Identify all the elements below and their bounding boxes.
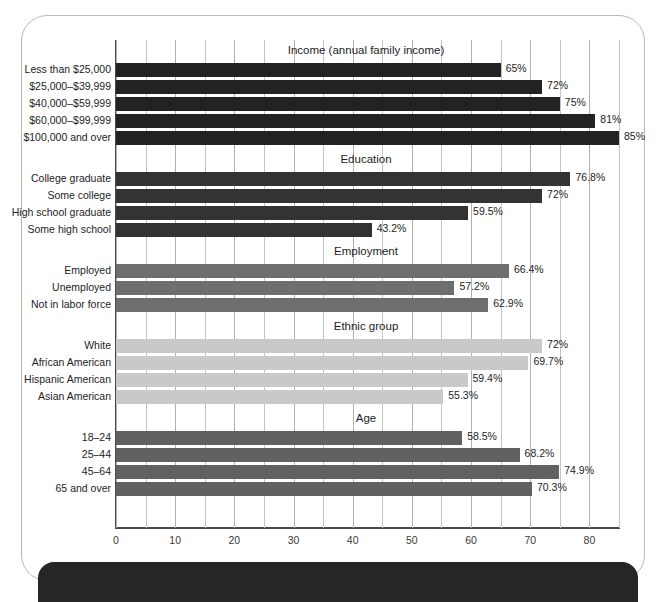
category-label: White [84, 339, 111, 351]
bar-value-label: 43.2% [377, 222, 407, 234]
x-tick-label: 40 [347, 534, 359, 546]
bar-row: 62.9% [116, 298, 619, 312]
bar [116, 431, 462, 445]
x-tick-label: 20 [229, 534, 241, 546]
section-title-income-annual-family-income: Income (annual family income) [288, 44, 445, 56]
bar-row: 76.8% [116, 172, 619, 186]
category-label: 45–64 [82, 465, 111, 477]
bar [116, 172, 570, 186]
bar-value-label: 70.3% [537, 481, 567, 493]
category-label: College graduate [31, 172, 111, 184]
x-tick-label: 50 [406, 534, 418, 546]
x-tick-label: 60 [465, 534, 477, 546]
bar [116, 281, 454, 295]
bar-row: 81% [116, 114, 619, 128]
category-label: Unemployed [52, 281, 111, 293]
category-label: $25,000–$39,999 [29, 80, 111, 92]
category-label: 18–24 [82, 431, 111, 443]
bar [116, 114, 595, 128]
category-label: Asian American [38, 390, 111, 402]
bar-value-label: 72% [547, 188, 568, 200]
category-label: Employed [64, 264, 111, 276]
bar-row: 85% [116, 131, 619, 145]
x-tick-label: 10 [169, 534, 181, 546]
bar [116, 356, 528, 370]
bar-value-label: 62.9% [493, 297, 523, 309]
bar [116, 390, 443, 404]
bar [116, 63, 501, 77]
bar-value-label: 68.2% [525, 447, 555, 459]
bar-row: 65% [116, 63, 619, 77]
section-title-education: Education [340, 153, 391, 165]
bar-row: 66.4% [116, 264, 619, 278]
bar-value-label: 55.3% [448, 389, 478, 401]
category-label: Less than $25,000 [25, 63, 111, 75]
bar-value-label: 69.7% [533, 355, 563, 367]
section-title-ethnic-group: Ethnic group [334, 320, 399, 332]
category-label: High school graduate [12, 206, 111, 218]
bar-value-label: 75% [565, 96, 586, 108]
plot-area: 65%72%75%81%85%76.8%72%59.5%43.2%66.4%57… [116, 40, 619, 528]
bar-value-label: 59.4% [473, 372, 503, 384]
category-label: Some high school [28, 223, 111, 235]
bar-row: 43.2% [116, 223, 619, 237]
bar [116, 448, 520, 462]
bar [116, 131, 619, 145]
bar-value-label: 76.8% [575, 171, 605, 183]
bar-value-label: 85% [624, 130, 645, 142]
bar [116, 206, 468, 220]
bar-value-label: 72% [547, 79, 568, 91]
bar-value-label: 81% [600, 113, 621, 125]
category-label: 65 and over [56, 482, 111, 494]
bar [116, 298, 488, 312]
bar-value-label: 65% [506, 62, 527, 74]
bar-row: 74.9% [116, 465, 619, 479]
section-title-employment: Employment [334, 245, 398, 257]
x-tick-label: 80 [584, 534, 596, 546]
bar-value-label: 57.2% [459, 280, 489, 292]
caption-bar [38, 562, 638, 602]
bar-row: 72% [116, 80, 619, 94]
bar [116, 189, 542, 203]
bar-value-label: 74.9% [564, 464, 594, 476]
bar-row: 69.7% [116, 356, 619, 370]
bar [116, 97, 560, 111]
section-title-age: Age [356, 412, 376, 424]
bar [116, 223, 372, 237]
bar-row: 59.4% [116, 373, 619, 387]
bar-value-label: 72% [547, 338, 568, 350]
bar [116, 465, 559, 479]
bar [116, 264, 509, 278]
bar-row: 68.2% [116, 448, 619, 462]
category-label: African American [32, 356, 111, 368]
x-tick-label: 0 [113, 534, 119, 546]
category-label: Not in labor force [31, 298, 111, 310]
x-tick-label: 70 [524, 534, 536, 546]
bar-row: 70.3% [116, 482, 619, 496]
bar-row: 58.5% [116, 431, 619, 445]
bar-value-label: 66.4% [514, 263, 544, 275]
category-label: $100,000 and over [23, 131, 111, 143]
bar-value-label: 59.5% [473, 205, 503, 217]
category-label: $60,000–$99,999 [29, 114, 111, 126]
category-label: $40,000–$59,999 [29, 97, 111, 109]
bar [116, 80, 542, 94]
bar-row: 75% [116, 97, 619, 111]
bar-row: 55.3% [116, 390, 619, 404]
bar-row: 72% [116, 189, 619, 203]
category-label: Some college [47, 189, 111, 201]
bar-value-label: 58.5% [467, 430, 497, 442]
category-label: 25–44 [82, 448, 111, 460]
category-label: Hispanic American [24, 373, 111, 385]
bar-row: 59.5% [116, 206, 619, 220]
bar [116, 373, 468, 387]
bar [116, 482, 532, 496]
bar-row: 57.2% [116, 281, 619, 295]
x-tick-label: 30 [288, 534, 300, 546]
bar-row: 72% [116, 339, 619, 353]
bar [116, 339, 542, 353]
